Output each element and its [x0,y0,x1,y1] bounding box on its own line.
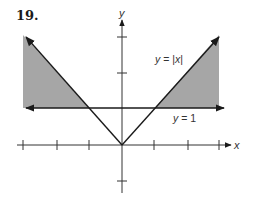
y-axis-label: y [118,7,126,19]
problem-number: 19. [16,8,39,23]
label-y-equals-1: y = 1 [172,112,196,124]
label-abs-x: y = |x| [154,53,183,65]
graph-figure: 19. x y y = |x| y = 1 [0,0,254,197]
x-axis-label: x [233,139,240,151]
